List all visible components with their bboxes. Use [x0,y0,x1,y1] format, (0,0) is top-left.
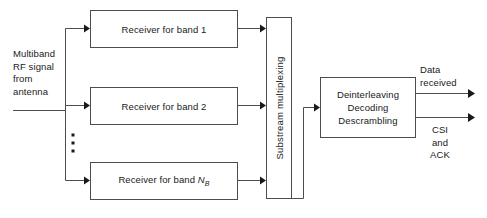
arrow-head-mux-in3 [260,177,266,185]
receiver-band1-label: Receiver for band 1 [90,10,238,48]
processing-line-3: Descrambling [338,114,397,127]
arrow-head-mux-in1 [260,25,266,33]
input-signal-label: Multiband RF signal from antenna [13,48,69,98]
ellipsis-dot-1 [72,134,75,137]
receiver-bandnb-label: Receiver for band NB [90,162,238,200]
receiver-bandnb-subscript: B [205,179,210,186]
receiver-bandnb-prefix: Receiver for band [118,174,197,185]
arrow-head-data-received [468,89,475,98]
mux-to-processing-line [292,108,315,199]
ellipsis-dot-3 [72,150,75,153]
block-diagram: Multiband RF signal from antenna Receive… [0,0,487,218]
ellipsis-dot-2 [72,142,75,145]
processing-line-2: Decoding [348,101,389,114]
receiver-band2-label: Receiver for band 2 [90,87,238,125]
arrow-head-csi-ack [468,113,475,122]
csi-ack-label: CSI and ACK [423,124,457,162]
processing-line-1: Deinterleaving [337,88,399,101]
receiver-bandnb-variable: N [198,174,205,185]
arrow-head-mux-in2 [260,102,266,110]
processing-block-label: Deinterleaving Decoding Descrambling [320,77,416,138]
data-received-label: Data received [420,64,478,89]
substream-multiplexing-label: Substream multiplexing [271,17,287,199]
